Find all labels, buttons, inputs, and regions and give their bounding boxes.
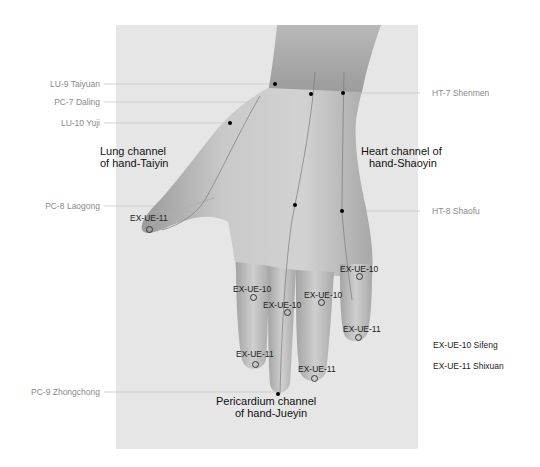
label-lu10-yuji: LU-10 Yuji (20, 118, 100, 128)
heart-channel-label-line1: Heart channel of (361, 145, 442, 157)
label-pc7-daling: PC-7 Daling (20, 97, 100, 107)
ex-ue-10-little-marker (356, 273, 363, 280)
point-ht7 (341, 91, 345, 95)
point-pc9 (276, 392, 280, 396)
point-lu10 (228, 121, 232, 125)
pericardium-channel-label-line2: of hand-Jueyin (235, 407, 307, 419)
ex-ue-10-ring-marker (318, 299, 325, 306)
ex-ue-11-little-marker (355, 334, 362, 341)
label-ht8-shaofu: HT-8 Shaofu (432, 206, 480, 216)
label-lu9-taiyuan: LU-9 Taiyuan (20, 79, 100, 89)
label-pc9-zhongchong: PC-9 Zhongchong (0, 387, 100, 397)
forearm (268, 25, 381, 92)
ex-ue-10-index-marker (250, 294, 257, 301)
point-pc8 (293, 203, 297, 207)
ex-ue-11-index-label: EX-UE-11 (236, 349, 274, 359)
heart-channel-label-line2: hand-Shaoyin (369, 157, 437, 169)
legend-ex-ue-11-shixuan: EX-UE-11 Shixuan (433, 361, 504, 371)
ex-ue-10-middle-marker (284, 309, 291, 316)
ex-ue-11-ring-label: EX-UE-11 (298, 364, 336, 374)
lung-channel-label-line1: Lung channel (100, 145, 166, 157)
pericardium-channel-label-line1: Pericardium channel (216, 395, 316, 407)
middle-finger (268, 266, 296, 393)
label-ht7-shenmen: HT-7 Shenmen (432, 88, 489, 98)
point-pc7 (309, 92, 313, 96)
legend-ex-ue-10-sifeng: EX-UE-10 Sifeng (433, 340, 498, 350)
ex-ue-11-little-label: EX-UE-11 (343, 324, 381, 334)
lung-channel-label-line2: of hand-Taiyin (100, 157, 169, 169)
point-ht8 (340, 209, 344, 213)
ex-ue-10-middle-label: EX-UE-10 (263, 300, 301, 310)
palm (142, 88, 373, 278)
ex-ue-11-thumb-label: EX-UE-11 (130, 213, 168, 223)
label-pc8-laogong: PC-8 Laogong (10, 201, 100, 211)
point-lu9 (273, 82, 277, 86)
ex-ue-11-thumb-marker (146, 226, 153, 233)
ex-ue-11-ring-marker (311, 375, 318, 382)
ex-ue-11-index-marker (252, 361, 259, 368)
ex-ue-10-index-label: EX-UE-10 (233, 284, 271, 294)
